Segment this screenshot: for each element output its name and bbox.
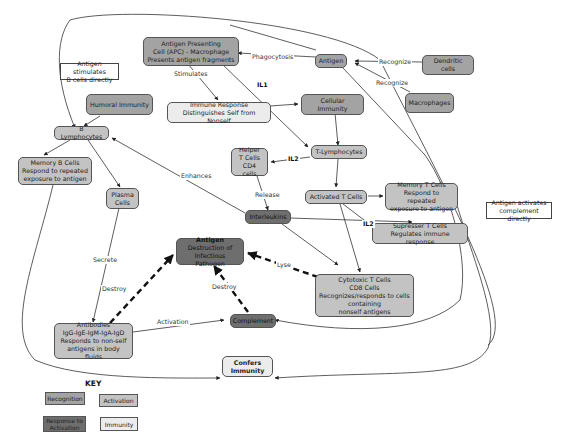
node-humoral-immunity[interactable]: Humoral Immunity — [86, 94, 153, 115]
node-supresser-t-cells[interactable]: Supresser T Cells Regulates immune respo… — [372, 223, 468, 244]
edge-secrete — [93, 208, 119, 322]
key-item-activation: Activation — [99, 394, 138, 407]
antigen-destruction-title: Antigen — [196, 236, 224, 244]
node-apc[interactable]: Antigen Presenting Cell (APC) - Macropha… — [143, 37, 239, 66]
edge-cellular-tlymph — [335, 113, 338, 145]
label-stimulates: Stimulates — [173, 70, 209, 78]
label-il2-supresser: IL2 — [362, 220, 375, 228]
label-enhances: Enhances — [180, 172, 212, 180]
node-antigen-destruction[interactable]: Antigen Destruction of Infectious Pathog… — [176, 238, 244, 265]
node-memory-b-cells[interactable]: Memory B Cells Respond to repeated expos… — [18, 157, 92, 185]
key-item-immunity: Immunity — [100, 417, 138, 431]
edge-antigen-apc-upper — [230, 25, 316, 50]
node-t-lymphocytes[interactable]: T-Lymphocytes — [311, 145, 367, 159]
node-confers-immunity[interactable]: Confers Immunity — [222, 356, 273, 377]
node-plasma-cells[interactable]: Plasma Cells — [106, 188, 139, 209]
label-recognize-dendritic: Recognize — [378, 58, 412, 66]
node-cytotoxic-t-cells[interactable]: Cytotoxic T Cells CD8 Cells Recognizes/r… — [315, 274, 414, 317]
label-il1: IL1 — [256, 81, 269, 89]
edge-tlymph-activated — [336, 159, 338, 187]
edge-immune-cellular — [270, 104, 298, 106]
node-antibodies[interactable]: Antibodies IgG-IgE-IgM-IgA-IgD Responds … — [54, 323, 133, 359]
note-antigen-activates-complement: Antigen activates complement directly — [486, 202, 552, 219]
node-helper-t-cells[interactable]: Helper T Cells CD4 cells — [231, 148, 268, 176]
node-antigen-top[interactable]: Antigen — [315, 54, 347, 68]
antigen-destruction-desc: Destruction of Infectious Pathogen — [180, 244, 240, 268]
label-destroy-complement: Destroy — [211, 283, 238, 291]
note-antigen-stimulates-b-cells: Antigen stimulates B cells directly — [60, 63, 119, 80]
edge-blymph-memoryb — [44, 140, 70, 155]
node-macrophages[interactable]: Macrophages — [405, 93, 454, 113]
label-destroy-antibodies: Destroy — [101, 285, 128, 293]
label-phagocytosis: Phagocytosis — [251, 53, 294, 61]
label-recognize-macrophages: Recognize — [375, 79, 409, 87]
node-memory-t-cells[interactable]: Memory T Cells Respond to repeated expos… — [385, 183, 458, 210]
key-title: KEY — [85, 379, 101, 388]
node-immune-response[interactable]: Immune Response Distinguishes Self from … — [167, 102, 271, 123]
node-interleukins[interactable]: Interleukins — [245, 210, 291, 224]
label-activation: Activation — [156, 318, 190, 326]
label-release: Release — [254, 191, 281, 199]
edge-blymph-plasma — [88, 140, 120, 187]
key-item-response: Response to Activation — [43, 416, 86, 432]
edge-macrophages-recognize — [355, 63, 410, 92]
node-complement[interactable]: Complement — [230, 314, 276, 328]
node-activated-t-cells[interactable]: Activated T Cells — [305, 190, 367, 204]
edge-interleukins-cytotoxic — [282, 224, 338, 265]
node-cellular-immunity[interactable]: Cellular Immunity — [301, 94, 364, 115]
node-dendritic-cells[interactable]: Dendritic cells — [422, 55, 474, 75]
label-lyse: Lyse — [276, 261, 292, 269]
node-b-lymphocytes[interactable]: B Lymphocytes — [54, 126, 109, 140]
label-secrete: Secrete — [92, 256, 118, 264]
label-il2-helper: IL2 — [287, 155, 300, 163]
key-item-recognition: Recognition — [45, 392, 85, 405]
